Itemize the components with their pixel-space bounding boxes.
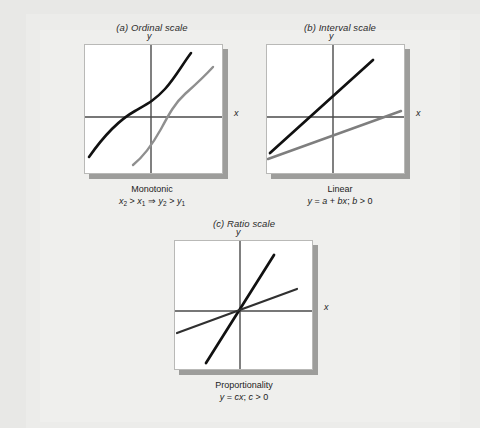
panel-ordinal-caption: Monotonic x2 > x1 ⇒ y2 > y1 [64, 183, 240, 208]
panel-ratio-title: (c) Ratio scale [156, 218, 332, 229]
panel-ratio-shadow-right [313, 245, 318, 375]
panel-ordinal-plot: y x [84, 44, 230, 178]
panel-interval-svg [267, 45, 404, 173]
panel-ordinal-caption-formula: x2 > x1 ⇒ y2 > y1 [64, 195, 240, 208]
panel-interval: (b) Interval scale y x Linear y = a [252, 22, 428, 212]
panel-interval-caption-title: Linear [252, 183, 428, 195]
panel-interval-shadow-bottom [271, 174, 410, 179]
panel-ratio-y-label: y [236, 227, 241, 237]
panel-ordinal-title: (a) Ordinal scale [64, 22, 240, 33]
panel-interval-y-label: y [329, 31, 334, 41]
panel-ratio-svg [175, 241, 312, 369]
panel-ordinal-box [84, 44, 223, 174]
panel-ordinal-y-label: y [147, 31, 152, 41]
panel-interval-x-label: x [416, 108, 421, 118]
panel-interval-plot: y x [266, 44, 412, 178]
panel-ratio-caption: Proportionality y = cx; c > 0 [156, 379, 332, 403]
panel-ordinal-shadow-bottom [89, 174, 228, 179]
panel-interval-box [266, 44, 405, 174]
panel-interval-title: (b) Interval scale [252, 22, 428, 33]
panel-ordinal-svg [85, 45, 222, 173]
panel-ratio-caption-formula: y = cx; c > 0 [156, 391, 332, 403]
panel-ordinal: (a) Ordinal scale y x Monotonic [64, 22, 240, 212]
panel-ordinal-curve-gray [133, 67, 213, 165]
figure-page: (a) Ordinal scale y x Monotonic [0, 0, 480, 428]
panel-ratio-box [174, 240, 313, 370]
panel-interval-caption-formula: y = a + bx; b > 0 [252, 195, 428, 207]
panel-ratio-caption-title: Proportionality [156, 379, 332, 391]
panel-ordinal-shadow-right [223, 49, 228, 179]
panel-ratio-shadow-bottom [179, 370, 318, 375]
panel-ordinal-x-label: x [234, 108, 239, 118]
panel-ratio: (c) Ratio scale y x Proportionality [156, 218, 332, 408]
panel-interval-caption: Linear y = a + bx; b > 0 [252, 183, 428, 207]
panel-ordinal-caption-title: Monotonic [64, 183, 240, 195]
panel-ratio-plot: y x [174, 240, 320, 374]
panel-ratio-x-label: x [324, 302, 329, 312]
panel-interval-shadow-right [405, 49, 410, 179]
